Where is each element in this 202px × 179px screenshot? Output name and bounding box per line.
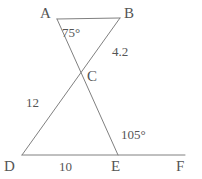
vertex-label-f: F xyxy=(176,159,184,174)
segment-AB xyxy=(57,18,120,19)
geometry-figure: A B C D E F 75° 4.2 12 10 105° xyxy=(0,0,202,179)
vertex-label-d: D xyxy=(4,159,15,174)
vertex-label-a: A xyxy=(40,6,51,21)
angle-label-75-degrees: 75° xyxy=(62,26,80,39)
angle-label-105-degrees: 105° xyxy=(121,128,146,141)
vertex-label-e: E xyxy=(111,159,120,174)
length-label-de: 10 xyxy=(59,160,72,173)
vertex-label-c: C xyxy=(87,69,97,84)
geometry-canvas xyxy=(0,0,202,179)
vertex-label-b: B xyxy=(124,6,134,21)
length-label-cb: 4.2 xyxy=(112,45,128,58)
length-label-dc: 12 xyxy=(26,96,39,109)
